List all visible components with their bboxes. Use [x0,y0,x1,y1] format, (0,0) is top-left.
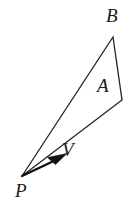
vertex-label-p: P [15,181,27,200]
vertex-label-b: B [106,6,118,25]
geometry-figure: B A P V [0,0,140,209]
vector-label-v: V [62,140,74,159]
region-label-a: A [97,76,109,95]
figure-canvas [0,0,140,209]
